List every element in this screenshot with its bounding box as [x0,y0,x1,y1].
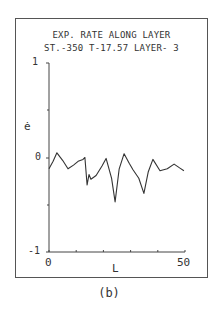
x-axis-label: L [112,262,119,275]
ytick-label-0: 0 [21,151,41,162]
y-axis-label: ė [24,120,31,133]
figure-caption: (b) [0,286,218,300]
ytick-label-minus1: -1 [20,245,40,256]
xtick-label-0: 0 [45,256,52,269]
xtick-label-50: 50 [177,256,190,269]
ytick-label-1: 1 [18,56,38,67]
data-line [49,153,184,202]
